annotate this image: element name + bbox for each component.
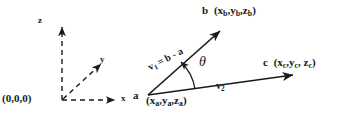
paren-open: (x (146, 94, 155, 106)
coord-sep-2: ,z (240, 4, 248, 16)
point-a-coords: (xa,ya,za) (146, 95, 187, 108)
vector-v2-label: v2 (216, 81, 225, 93)
paren-open: (x (274, 56, 283, 68)
v2-subscript: 2 (221, 85, 225, 93)
paren-close: ) (312, 56, 316, 68)
coord-sep-1: ,y (227, 4, 235, 16)
point-b-letter: b (202, 4, 208, 16)
coord-sep-2: , z (298, 56, 308, 68)
x-axis-label: x (121, 94, 126, 103)
point-c-letter: c (263, 56, 268, 68)
coord-sep-2: ,z (171, 94, 179, 106)
vector-geometry-figure: z y x (0,0,0) a (xa,ya,za) b (xb,yb,zb) … (0, 0, 342, 123)
coord-sep-1: ,y (286, 56, 294, 68)
y-axis-label: y (100, 55, 105, 64)
point-c-label: c (xc,yc, zc) (263, 57, 316, 70)
paren-close: ) (183, 94, 187, 106)
z-axis-label: z (38, 16, 42, 25)
angle-arc (181, 62, 195, 89)
paren-open: (x (214, 4, 223, 16)
paren-close: ) (252, 4, 256, 16)
point-b-label: b (xb,yb,zb) (202, 5, 256, 18)
angle-theta-label: θ (199, 55, 206, 69)
point-a-letter: a (133, 89, 139, 101)
origin-label: (0,0,0) (2, 93, 31, 104)
y-axis-line (63, 64, 101, 99)
point-a-label: a (133, 90, 139, 101)
